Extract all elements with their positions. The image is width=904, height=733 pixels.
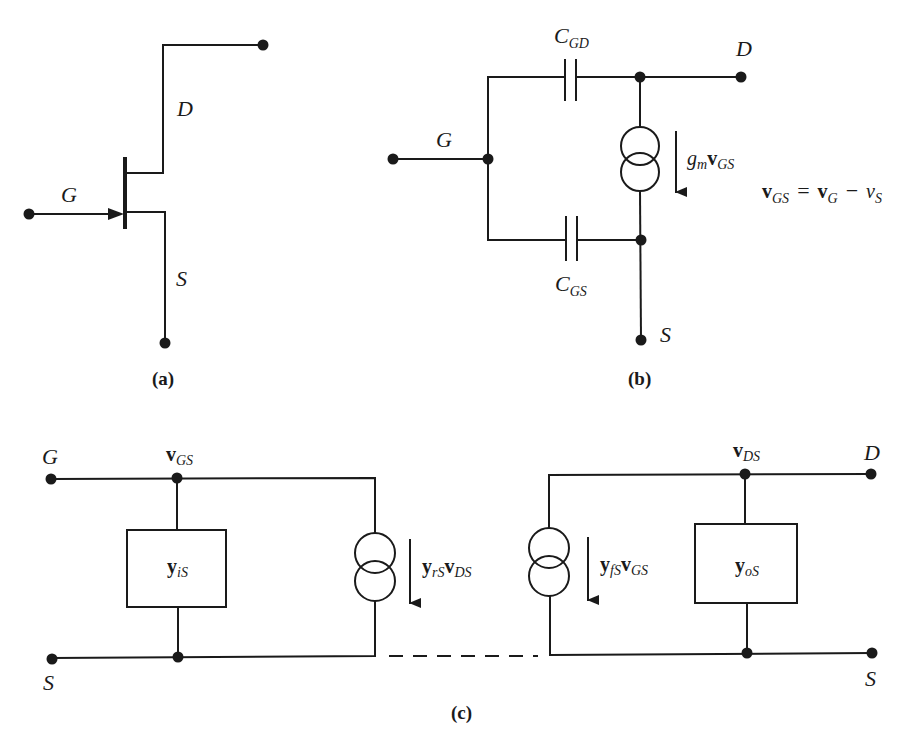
label-yrs-vds: yrSvDS [422,555,472,580]
vds-node [740,469,751,480]
drain-lead [127,45,263,173]
label-s-left: S [43,670,54,695]
part-b-equivalent-circuit: G D S CGD CGS gmvGS (b) vGS=vG−vS [388,23,882,390]
label-s: S [176,266,187,291]
drain-terminal [258,40,269,51]
label-g: G [61,182,77,207]
gate-arrow-icon [108,208,124,220]
label-vds-node: vDS [733,439,760,464]
source-lead [127,212,165,343]
source-lead [640,191,641,340]
source-terminal [636,335,647,346]
gate-terminal [24,209,35,220]
label-d: D [735,36,752,61]
drain-terminal [736,72,747,83]
input-top-wire [51,478,375,533]
source-terminal-right [867,648,878,659]
label-d: D [176,96,193,121]
caption-a: (a) [152,368,174,390]
current-source-icon-lower [621,153,659,191]
label-yos: yoS [735,554,759,579]
vgs-node [172,473,183,484]
source-node-left [173,652,184,663]
label-g: G [42,444,58,469]
label-vgs-node: vGS [166,443,193,468]
gate-terminal [388,154,399,165]
input-bottom-wire [52,601,375,658]
output-bottom-wire [550,596,872,655]
label-s-right: S [865,666,876,691]
circuit-figure: D G S (a) G D S CGD [0,0,904,733]
forward-source-icon-lower [529,556,569,596]
reverse-source-icon-lower [355,561,395,601]
source-node [636,235,647,246]
label-g: G [436,127,452,152]
source-terminal-left [47,654,58,665]
drain-terminal [866,469,877,480]
label-yis: yiS [167,555,188,580]
label-cgs: CGS [555,271,587,299]
equation-vgs: vGS=vG−vS [762,178,882,206]
label-s: S [660,322,671,347]
source-terminal [160,338,171,349]
label-cgd: CGD [554,23,589,51]
caption-c: (c) [451,702,472,724]
drain-node [635,72,646,83]
source-node-right [742,648,753,659]
gate-terminal [46,474,57,485]
caption-b: (b) [628,368,651,390]
output-top-wire [549,474,871,528]
gate-rail [488,77,566,240]
label-gm-vgs: gmvGS [687,147,734,172]
part-c-y-parameter-model: G S D S vGS vDS yiS yoS yrSvDS yfSvGS (c… [42,439,880,724]
gate-node [483,154,494,165]
label-yfs-vgs: yfSvGS [600,553,648,578]
part-a-jfet-symbol: D G S (a) [24,40,269,391]
label-d: D [863,440,880,465]
